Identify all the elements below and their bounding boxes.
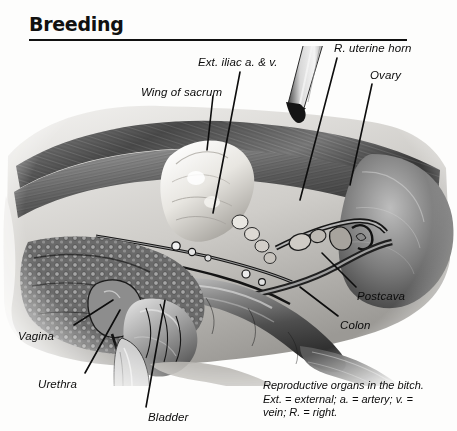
label-ext-iliac: Ext. iliac a. & v. bbox=[198, 56, 278, 68]
label-vagina: Vagina bbox=[18, 330, 54, 342]
page-root: Breeding bbox=[0, 0, 457, 431]
page-title: Breeding bbox=[29, 13, 123, 35]
caption-line-3: vein; R. = right. bbox=[263, 406, 453, 420]
title-rule bbox=[29, 39, 407, 41]
anatomy-illustration bbox=[0, 46, 457, 386]
label-bladder: Bladder bbox=[148, 411, 188, 423]
label-postcava: Postcava bbox=[357, 290, 405, 302]
label-r-uterine-horn: R. uterine horn bbox=[334, 42, 412, 54]
label-ovary: Ovary bbox=[370, 69, 401, 81]
retractor-probe bbox=[286, 46, 336, 123]
label-wing-of-sacrum: Wing of sacrum bbox=[141, 86, 222, 98]
label-colon: Colon bbox=[340, 319, 371, 331]
ovary-body bbox=[330, 227, 352, 250]
illustration-body bbox=[4, 106, 454, 386]
caption-line-2: Ext. = external; a. = artery; v. = bbox=[263, 393, 453, 407]
caption-line-1: Reproductive organs in the bitch. bbox=[263, 379, 453, 393]
label-urethra: Urethra bbox=[38, 378, 77, 390]
figure-caption: Reproductive organs in the bitch. Ext. =… bbox=[263, 379, 453, 420]
